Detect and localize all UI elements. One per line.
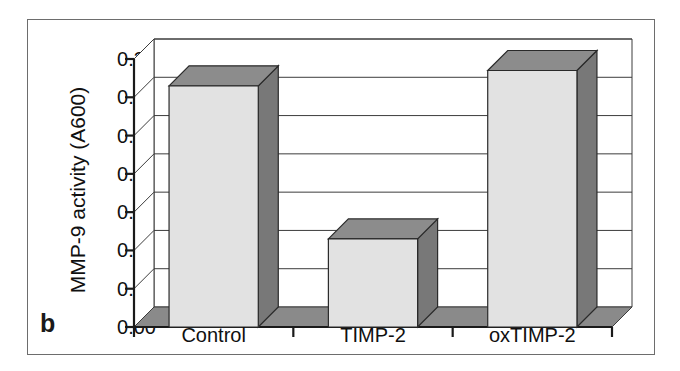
x-axis-tick-label: oxTIMP-2 (489, 324, 576, 347)
panel-letter: b (40, 311, 55, 336)
x-axis-tick-label: Control (181, 324, 245, 347)
x-axis-tick-label: TIMP-2 (340, 324, 406, 347)
x-axis-tick-labels: ControlTIMP-2oxTIMP-2 (0, 0, 680, 371)
figure-panel: MMP-9 activity (A600) 0.000.050.100.150.… (0, 0, 680, 371)
